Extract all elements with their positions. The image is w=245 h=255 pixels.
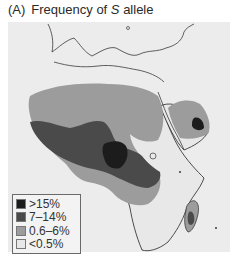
title-text-prefix: Frequency of xyxy=(31,2,111,17)
legend-item-high: >15% xyxy=(16,197,77,211)
legend-label: 7–14% xyxy=(29,210,66,224)
legend-swatch-low xyxy=(16,226,26,236)
legend-item-low: 0.6–6% xyxy=(16,224,77,238)
legend-swatch-mid xyxy=(16,212,26,222)
europe-coastline xyxy=(48,24,194,56)
legend-label: <0.5% xyxy=(29,237,63,251)
island xyxy=(179,171,181,173)
title-text-suffix: allele xyxy=(120,2,154,17)
title-allele-symbol: S xyxy=(111,2,120,17)
map-legend: >15% 7–14% 0.6–6% <0.5% xyxy=(12,194,81,254)
legend-swatch-high xyxy=(16,199,26,209)
legend-item-mid: 7–14% xyxy=(16,211,77,225)
figure-title: (A)Frequency of S allele xyxy=(8,2,153,17)
legend-label: >15% xyxy=(29,197,60,211)
island xyxy=(127,27,130,30)
lake-victoria xyxy=(150,153,156,159)
legend-item-none: <0.5% xyxy=(16,238,77,252)
panel-label: (A) xyxy=(8,2,25,17)
island xyxy=(215,227,217,229)
mediterranean-coast xyxy=(54,62,164,82)
legend-label: 0.6–6% xyxy=(29,224,70,238)
legend-swatch-none xyxy=(16,239,26,249)
